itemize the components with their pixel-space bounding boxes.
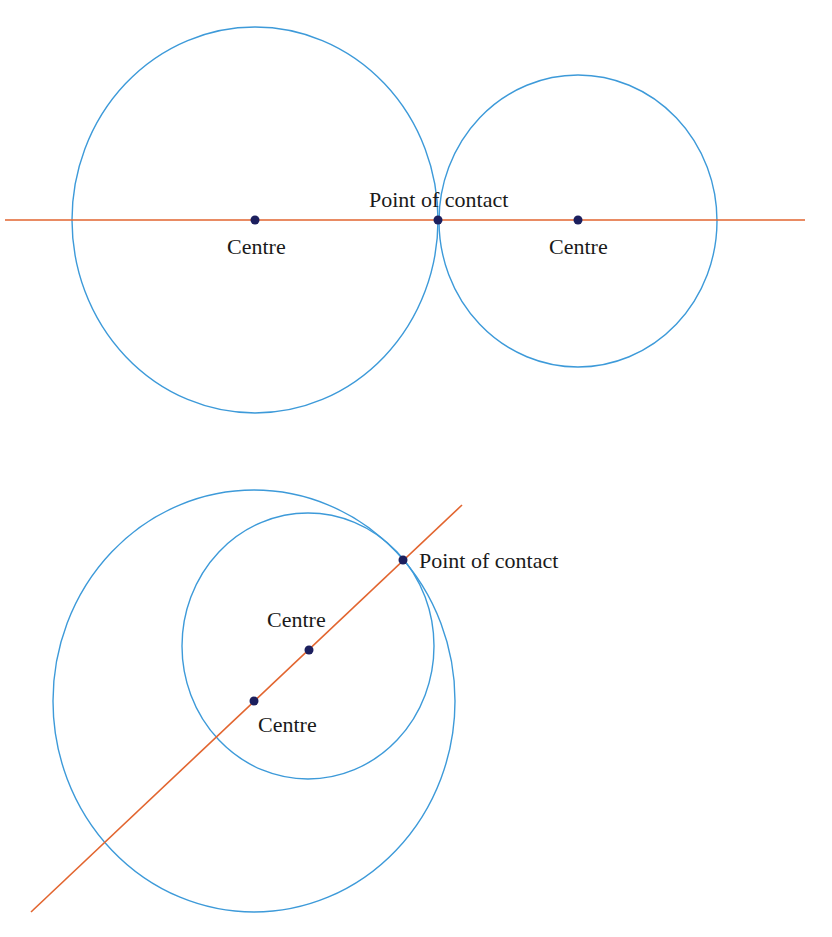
left-centre-dot: [251, 216, 260, 225]
line-of-centres: [31, 505, 462, 912]
left-centre-label: Centre: [227, 234, 286, 259]
inner-centre-dot: [305, 646, 314, 655]
tangent-circles-figure: Centre Point of contact Centre Point of …: [0, 0, 832, 937]
contact-point-dot: [399, 556, 408, 565]
outer-centre-dot: [250, 697, 259, 706]
outer-centre-label: Centre: [258, 712, 317, 737]
right-centre-dot: [574, 216, 583, 225]
inner-centre-label: Centre: [267, 607, 326, 632]
external-tangency-diagram: Centre Point of contact Centre: [5, 27, 805, 413]
internal-tangency-diagram: Point of contact Centre Centre: [31, 490, 558, 912]
contact-label: Point of contact: [369, 187, 508, 212]
right-centre-label: Centre: [549, 234, 608, 259]
contact-label: Point of contact: [419, 548, 558, 573]
contact-point-dot: [434, 216, 443, 225]
